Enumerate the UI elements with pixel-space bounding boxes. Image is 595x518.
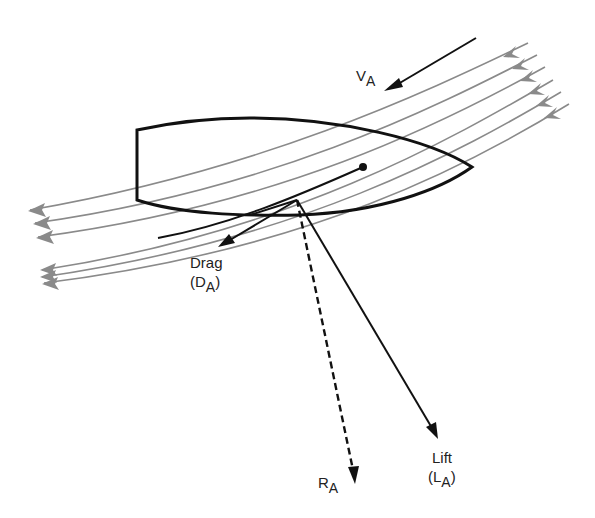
- streamline-6: [44, 104, 569, 283]
- apparent-wind-arrow: [398, 38, 476, 84]
- streamline-arrow-icon: [33, 216, 51, 230]
- label-subscript: A: [206, 279, 215, 295]
- label-subscript: A: [366, 73, 375, 89]
- resultant-label: RA: [318, 475, 338, 495]
- drag-label-line1: Drag: [190, 255, 223, 270]
- streamline-arrow-icon: [528, 83, 545, 95]
- streamline-1: [30, 43, 528, 210]
- resultant-arrow: [297, 200, 353, 470]
- lift-label-line2: (LA): [428, 469, 456, 489]
- lift-label: Lift (LA): [428, 450, 456, 489]
- label-subscript: A: [441, 474, 450, 490]
- streamline-arrow-icon: [36, 230, 54, 244]
- lift-arrow: [297, 200, 432, 428]
- streamlines: [28, 43, 569, 290]
- apparent-wind-arrowhead-icon: [384, 78, 403, 91]
- drag-label: Drag (DA): [190, 255, 223, 294]
- streamline-arrow-icon: [536, 95, 553, 107]
- mast-dot: [359, 163, 367, 171]
- label-main: V: [356, 67, 366, 84]
- lift-label-line1: Lift: [428, 450, 456, 465]
- lift-arrowhead-icon: [426, 422, 438, 439]
- resultant-arrowhead-icon: [348, 466, 359, 484]
- streamline-arrow-icon: [28, 203, 46, 217]
- label-main: R: [318, 474, 329, 491]
- label-close: ): [451, 468, 456, 485]
- streamline-3: [38, 67, 545, 237]
- sail-force-diagram: [0, 0, 595, 518]
- streamline-2: [35, 55, 537, 223]
- streamline-arrow-icon: [520, 70, 537, 82]
- label-subscript: A: [329, 480, 338, 496]
- label-close: ): [215, 273, 220, 290]
- streamline-4: [42, 80, 553, 270]
- drag-label-line2: (DA): [190, 274, 223, 294]
- apparent-wind-label: VA: [356, 68, 375, 88]
- label-open: (D: [190, 273, 206, 290]
- sail-line: [158, 167, 363, 238]
- label-open: (L: [428, 468, 441, 485]
- streamline-arrow-icon: [544, 107, 561, 119]
